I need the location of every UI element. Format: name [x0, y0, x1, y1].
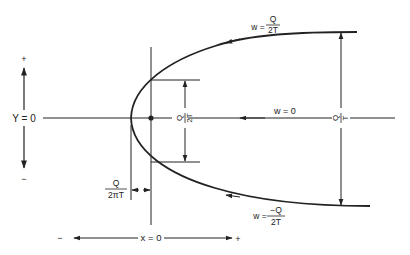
full-width-dimension: Q T [331, 33, 350, 205]
x-axis-plus: + [235, 234, 240, 244]
svg-text:2πT: 2πT [108, 190, 124, 200]
x-axis-minus: − [57, 233, 62, 243]
lower-streamline-label: w = −Q 2T [252, 205, 285, 227]
y-axis-minus: − [21, 174, 26, 184]
x-axis-indicator: x = 0 − + [57, 232, 240, 244]
x-axis-label: x = 0 [141, 232, 162, 243]
source-point [148, 115, 153, 120]
svg-text:Q: Q [331, 115, 340, 121]
half-width-dimension: Q 2T [151, 80, 200, 162]
svg-text:2T: 2T [271, 217, 281, 227]
svg-text:T: T [341, 115, 350, 120]
svg-text:w =: w = [252, 211, 267, 221]
svg-text:w =: w = [250, 22, 265, 32]
y-axis-label: Y = 0 [12, 113, 36, 124]
svg-text:Q: Q [175, 115, 184, 121]
center-streamline-label: w = 0 [273, 106, 296, 116]
streamline-diagram: + − Y = 0 w = 0 w = Q 2T w = −Q 2T Q [0, 0, 410, 255]
upper-streamline-label: w = Q 2T [250, 14, 280, 35]
y-axis-plus: + [21, 54, 26, 64]
svg-text:2T: 2T [185, 113, 194, 122]
stagnation-offset-dimension: Q 2πT [105, 125, 150, 200]
svg-text:Q: Q [113, 178, 120, 188]
svg-text:Q: Q [270, 14, 277, 24]
svg-text:2T: 2T [268, 25, 278, 35]
y-axis-indicator: + − Y = 0 [12, 54, 36, 184]
svg-text:−Q: −Q [270, 205, 282, 215]
